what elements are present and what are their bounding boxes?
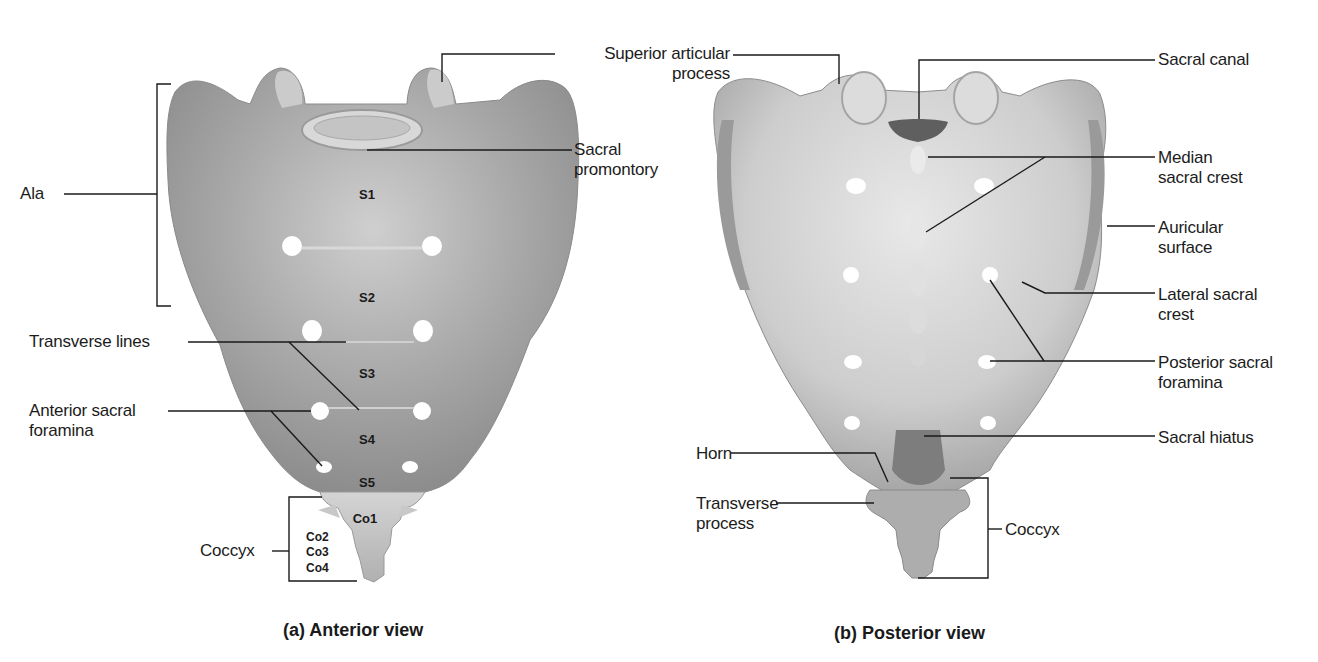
segment-s2: S2 (355, 290, 379, 305)
sacrum-illustration (0, 0, 1318, 662)
label-sacral-canal: Sacral canal (1158, 50, 1249, 70)
label-sacral-hiatus: Sacral hiatus (1158, 428, 1254, 448)
segment-s5: S5 (355, 475, 379, 490)
label-lateral-sacral-crest: Lateral sacral crest (1158, 285, 1257, 325)
caption-posterior-view: (b) Posterior view (834, 623, 985, 644)
label-coccyx-anterior: Coccyx (200, 541, 255, 561)
segment-co2: Co2 (306, 530, 329, 544)
anterior-sacrum-shape (167, 68, 579, 582)
label-anterior-sacral-foramina: Anterior sacral foramina (29, 401, 136, 441)
segment-s1: S1 (355, 187, 379, 202)
label-ala: Ala (20, 184, 44, 204)
label-posterior-sacral-foramina: Posterior sacral foramina (1158, 353, 1273, 393)
label-coccyx-posterior: Coccyx (1005, 520, 1060, 540)
label-sacral-promontory: Sacral promontory (574, 140, 658, 180)
label-auricular-surface: Auricular surface (1158, 218, 1223, 258)
label-horn: Horn (696, 444, 732, 464)
caption-anterior-view: (a) Anterior view (283, 620, 423, 641)
label-transverse-lines: Transverse lines (29, 332, 150, 352)
label-superior-articular-process: Superior articular process (556, 44, 730, 84)
segment-s3: S3 (355, 366, 379, 381)
segment-s4: S4 (355, 432, 379, 447)
label-median-sacral-crest: Median sacral crest (1158, 148, 1243, 188)
segment-co3: Co3 (306, 545, 329, 559)
label-transverse-process: Transverse process (696, 494, 778, 534)
segment-co1: Co1 (348, 511, 382, 526)
segment-co4: Co4 (306, 561, 329, 575)
